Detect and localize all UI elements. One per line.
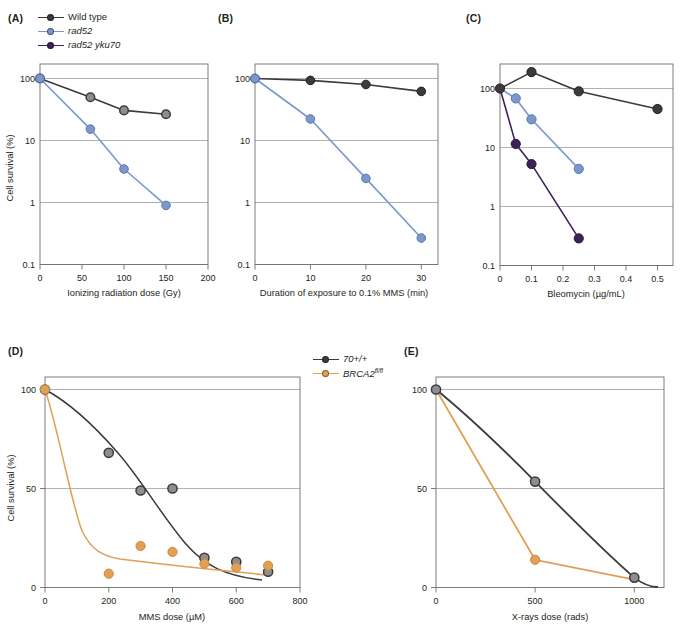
legend-label-rad52: rad52 bbox=[68, 25, 92, 37]
svg-text:1: 1 bbox=[245, 198, 250, 208]
panel-d-markers-70pp bbox=[40, 385, 272, 576]
panel-a-xticks: 0 50 100 150 200 bbox=[37, 265, 215, 284]
svg-text:0: 0 bbox=[31, 583, 36, 593]
svg-text:0: 0 bbox=[252, 273, 257, 283]
legend-label-wild-type: Wild type bbox=[68, 11, 107, 23]
svg-text:50: 50 bbox=[417, 484, 427, 494]
svg-text:100: 100 bbox=[21, 385, 36, 395]
svg-text:100: 100 bbox=[235, 74, 250, 84]
panel-d-plot: 100 50 0 0 200 400 600 800 MMS dose (µM)… bbox=[0, 368, 400, 632]
svg-text:10: 10 bbox=[25, 136, 35, 146]
panel-a-series-rad52-line bbox=[40, 79, 166, 206]
panel-e-frame bbox=[436, 377, 664, 588]
svg-text:0.1: 0.1 bbox=[525, 274, 538, 284]
legend-item-brca2-wt: 70+/+ bbox=[313, 352, 383, 366]
figure-root: (A) Wild type rad52 rad52 yku70 bbox=[0, 0, 695, 632]
panel-c-frame bbox=[500, 64, 673, 266]
svg-text:800: 800 bbox=[292, 596, 307, 606]
panel-a-plot: 100 10 1 0.1 0 50 100 150 200 Ionizing r… bbox=[0, 58, 235, 333]
panel-b-markers-wild-type bbox=[251, 74, 426, 96]
panel-e-plot: 100 50 0 0 500 1000 X-rays dose (rads) bbox=[396, 368, 695, 632]
svg-text:0: 0 bbox=[497, 274, 502, 284]
svg-text:1000: 1000 bbox=[624, 596, 644, 606]
panel-e-grid bbox=[436, 390, 664, 489]
svg-text:0.4: 0.4 bbox=[620, 274, 633, 284]
panel-c-yticks: 100 10 1 0.1 bbox=[480, 84, 495, 271]
panel-b-plot: 100 10 1 0.1 0 10 20 30 Duration of expo… bbox=[210, 58, 450, 333]
legend-top: Wild type rad52 rad52 yku70 bbox=[38, 10, 120, 52]
svg-text:0.1: 0.1 bbox=[237, 260, 250, 270]
panel-label-c: (C) bbox=[466, 12, 481, 24]
svg-text:0.2: 0.2 bbox=[557, 274, 570, 284]
svg-text:100: 100 bbox=[116, 273, 131, 283]
svg-text:30: 30 bbox=[416, 273, 426, 283]
panel-d-yticks: 100 50 0 bbox=[21, 385, 45, 593]
legend-label-rad52-yku70: rad52 yku70 bbox=[68, 39, 120, 51]
legend-item-rad52: rad52 bbox=[38, 24, 120, 38]
panel-a-xlabel: Ionizing radiation dose (Gy) bbox=[67, 288, 181, 298]
panel-e-xlabel: X-rays dose (rads) bbox=[512, 612, 588, 622]
svg-text:20: 20 bbox=[361, 273, 371, 283]
panel-c-grid bbox=[500, 89, 673, 266]
svg-text:100: 100 bbox=[20, 74, 35, 84]
svg-text:10: 10 bbox=[240, 136, 250, 146]
legend-swatch-wild-type bbox=[38, 11, 64, 23]
svg-text:0: 0 bbox=[422, 583, 427, 593]
svg-text:0.1: 0.1 bbox=[482, 261, 495, 271]
panel-c-xlabel: Bleomycin (µg/mL) bbox=[547, 289, 625, 299]
legend-swatch-brca2-wt bbox=[313, 353, 339, 365]
panel-e-yticks: 100 50 0 bbox=[412, 385, 436, 593]
panel-a-markers-wild-type bbox=[36, 74, 171, 118]
svg-text:1: 1 bbox=[30, 198, 35, 208]
panel-d-fit-70pp bbox=[45, 390, 262, 581]
panel-b-series-wild-type-line bbox=[255, 79, 421, 92]
panel-d: 100 50 0 0 200 400 600 800 MMS dose (µM)… bbox=[0, 368, 400, 632]
panel-c-series-rad52-yku70-line bbox=[500, 89, 579, 239]
panel-b-yticks: 100 10 1 0.1 bbox=[235, 74, 250, 270]
svg-text:0: 0 bbox=[37, 273, 42, 283]
panel-c-xticks: 0 0.1 0.2 0.3 0.4 0.5 bbox=[497, 266, 663, 285]
panel-label-e: (E) bbox=[404, 345, 419, 357]
svg-text:50: 50 bbox=[77, 273, 87, 283]
svg-text:50: 50 bbox=[26, 484, 36, 494]
panel-c: 100 10 1 0.1 0 0.1 0.2 0.3 0.4 0.5 Bleom… bbox=[458, 58, 695, 333]
panel-a-yticks: 100 10 1 0.1 bbox=[20, 74, 35, 270]
svg-text:100: 100 bbox=[412, 385, 427, 395]
svg-text:0.1: 0.1 bbox=[22, 260, 35, 270]
panel-b-series-rad52-line bbox=[255, 79, 421, 239]
panel-e-xticks: 0 500 1000 bbox=[433, 588, 644, 607]
legend-swatch-rad52-yku70 bbox=[38, 39, 64, 51]
panel-d-markers-brca2-flfl bbox=[40, 385, 272, 578]
panel-b-frame bbox=[255, 64, 438, 265]
panel-e-markers-brca2-flfl bbox=[531, 555, 540, 564]
svg-text:0: 0 bbox=[433, 596, 438, 606]
panel-b-xlabel: Duration of exposure to 0.1% MMS (min) bbox=[260, 288, 428, 298]
svg-text:0.5: 0.5 bbox=[651, 274, 664, 284]
svg-text:0: 0 bbox=[42, 596, 47, 606]
svg-text:10: 10 bbox=[305, 273, 315, 283]
svg-text:150: 150 bbox=[158, 273, 173, 283]
svg-text:10: 10 bbox=[485, 143, 495, 153]
svg-text:0.3: 0.3 bbox=[588, 274, 601, 284]
legend-item-wild-type: Wild type bbox=[38, 10, 120, 24]
panel-b-xticks: 0 10 20 30 bbox=[252, 265, 426, 284]
svg-text:100: 100 bbox=[480, 84, 495, 94]
panel-d-xlabel: MMS dose (µM) bbox=[139, 612, 205, 622]
panel-label-a: (A) bbox=[8, 12, 23, 24]
panel-label-d: (D) bbox=[8, 345, 23, 357]
panel-label-b: (B) bbox=[218, 12, 233, 24]
panel-b-markers-rad52 bbox=[251, 74, 426, 242]
panel-d-xticks: 0 200 400 600 800 bbox=[42, 588, 307, 607]
panel-b-grid bbox=[255, 79, 438, 265]
panel-a: 100 10 1 0.1 0 50 100 150 200 Ionizing r… bbox=[0, 58, 235, 333]
svg-text:1: 1 bbox=[490, 202, 495, 212]
panel-c-markers-wild-type bbox=[495, 68, 662, 114]
legend-label-brca2-wt: 70+/+ bbox=[343, 353, 367, 365]
panel-d-grid bbox=[45, 390, 300, 489]
legend-swatch-rad52 bbox=[38, 25, 64, 37]
svg-text:500: 500 bbox=[528, 596, 543, 606]
svg-text:400: 400 bbox=[165, 596, 180, 606]
panel-d-ylabel: Cell survival (%) bbox=[6, 454, 16, 521]
panel-a-ylabel: Cell survival (%) bbox=[5, 134, 15, 201]
svg-text:600: 600 bbox=[229, 596, 244, 606]
